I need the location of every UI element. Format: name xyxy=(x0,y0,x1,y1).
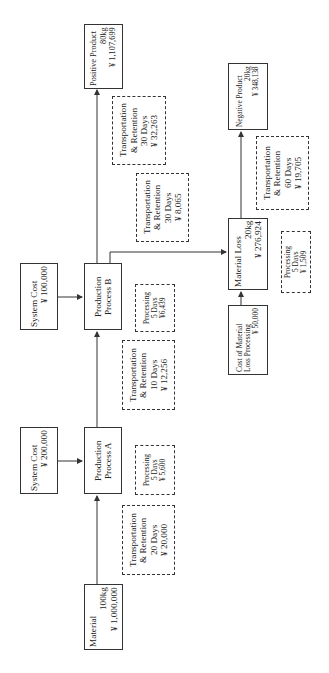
note-cost: ¥ 19,705 xyxy=(293,139,303,207)
node-title: System Cost xyxy=(29,430,39,491)
node-title: Material Loss xyxy=(233,221,243,287)
note-cost: ¥ 12,256 xyxy=(159,343,169,407)
note-cost: ¥ 8,065 xyxy=(173,176,183,239)
node-cost: ¥ 1,107,699 xyxy=(108,27,117,86)
node-title-line2: Process A xyxy=(103,430,113,491)
node-loss-processing-cost: Cost of Material Loss Processing ¥ 50,00… xyxy=(228,305,268,375)
note-label-line1: Transportation xyxy=(128,508,138,572)
note-label-line1: Transportation xyxy=(142,176,152,239)
arrow-process-b-to-material-loss xyxy=(110,252,226,263)
node-system-cost-a: System Cost ¥ 200,000 xyxy=(20,427,58,494)
node-title-line2: Process B xyxy=(103,266,113,327)
node-cost: ¥ 348,138 xyxy=(252,66,260,127)
note-processing-a: Processing 5 Days ¥ 5,600 xyxy=(135,445,175,495)
note-transport-a-to-b: Transportation & Retention 10 Days ¥ 12,… xyxy=(122,340,175,410)
node-cost: ¥ 50,000 xyxy=(252,308,260,372)
note-cost: ¥ 5,600 xyxy=(159,448,167,492)
note-transport-loss-to-negative: Transportation & Retention 60 Days ¥ 19,… xyxy=(256,136,309,210)
note-cost: ¥ 1,509 xyxy=(300,234,308,290)
node-title: System Cost xyxy=(29,266,39,327)
note-days: 30 Days xyxy=(163,176,173,239)
node-cost: ¥ 100,000 xyxy=(39,266,49,327)
node-weight: 100kg xyxy=(98,587,108,647)
note-label-line1: Transportation xyxy=(128,343,138,407)
note-transport-b-to-positive: Transportation & Retention 30 Days ¥ 32,… xyxy=(112,96,166,165)
note-transport-material-to-a: Transportation & Retention 20 Days ¥ 20,… xyxy=(122,505,175,575)
note-label-line2: & Retention xyxy=(152,176,162,239)
note-label-line1: Transportation xyxy=(262,139,272,207)
node-title-line1: Production xyxy=(93,266,103,327)
note-cost: ¥ 32,263 xyxy=(149,99,159,162)
node-cost: ¥ 276,924 xyxy=(253,221,263,287)
note-days: 10 Days xyxy=(149,343,159,407)
note-transport-b-to-loss: Transportation & Retention 30 Days ¥ 8,0… xyxy=(136,173,189,242)
node-weight: 20kg xyxy=(243,221,253,287)
node-cost: ¥ 200,000 xyxy=(39,430,49,491)
node-production-process-b: Production Process B xyxy=(84,263,122,330)
note-cost: ¥6,439 xyxy=(159,287,167,329)
note-label-line2: & Retention xyxy=(272,139,282,207)
node-title-line1: Production xyxy=(93,430,103,491)
node-production-process-a: Production Process A xyxy=(84,427,122,494)
note-processing-loss: Processing 5 Days ¥ 1,509 xyxy=(281,231,311,293)
note-days: 60 Days xyxy=(283,139,293,207)
note-days: 20 Days xyxy=(149,508,159,572)
node-title: Material xyxy=(88,587,98,647)
node-negative-product: Negative Product 20kg ¥ 348,138 xyxy=(228,63,268,130)
node-positive-product: Positive Product 80kg ¥ 1,107,699 xyxy=(84,24,123,89)
node-material: Material 100kg ¥ 1,000,000 xyxy=(84,584,123,650)
note-days: 30 Days xyxy=(139,99,149,162)
node-material-loss: Material Loss 20kg ¥ 276,924 xyxy=(228,218,268,290)
node-weight: 80kg xyxy=(99,27,108,86)
node-system-cost-b: System Cost ¥ 100,000 xyxy=(20,263,58,330)
note-processing-b: Processing 5 Days ¥6,439 xyxy=(135,284,175,332)
note-cost: ¥ 20,000 xyxy=(159,508,169,572)
note-label-line2: & Retention xyxy=(138,508,148,572)
node-title: Positive Product xyxy=(89,27,98,86)
note-label-line2: & Retention xyxy=(138,343,148,407)
node-cost: ¥ 1,000,000 xyxy=(109,587,119,647)
note-label-line2: & Retention xyxy=(129,99,139,162)
note-label-line1: Transportation xyxy=(118,99,128,162)
